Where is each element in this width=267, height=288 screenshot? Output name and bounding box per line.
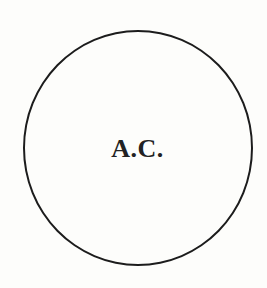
circle-label: A.C.	[0, 134, 267, 164]
diagram-canvas: A.C.	[0, 0, 267, 288]
